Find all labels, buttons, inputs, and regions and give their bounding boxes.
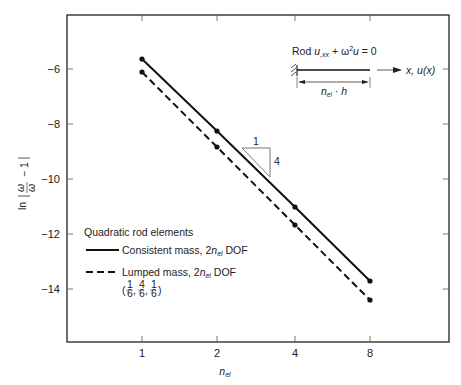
y-tick-labels: −6 −8 −10 −12 −14	[41, 63, 60, 295]
svg-text:6: 6	[151, 287, 157, 299]
rod-equation: Rod u,xx + ω2u = 0	[292, 45, 377, 58]
legend: Quadratic rod elements Consistent mass, …	[84, 226, 248, 299]
x-ticks	[142, 336, 370, 342]
data-point	[367, 297, 372, 302]
data-point	[214, 128, 219, 133]
y-tick-minus10: −10	[41, 173, 60, 185]
top-ticks	[142, 15, 370, 21]
svg-text:− 1: − 1	[18, 162, 30, 177]
lumped-weights: ( 1 6 , 4 6 , 1 6 )	[122, 278, 162, 299]
legend-consistent: Consistent mass, 2nel DOF	[122, 244, 248, 257]
y-ticks	[67, 69, 73, 289]
data-point	[139, 69, 144, 74]
y-tick-minus14: −14	[41, 283, 60, 295]
svg-text:,: ,	[133, 284, 136, 296]
y-axis-label: ln ω ω − 1	[14, 158, 37, 210]
data-point	[292, 222, 297, 227]
y-tick-minus8: −8	[47, 118, 60, 130]
y-tick-minus12: −12	[41, 228, 60, 240]
x-tick-labels: 1 2 4 8	[139, 347, 373, 359]
data-point	[139, 56, 144, 61]
slope-triangle: 1 4	[242, 135, 280, 177]
legend-title: Quadratic rod elements	[84, 226, 193, 238]
svg-text:(: (	[122, 284, 126, 296]
svg-text:): )	[158, 284, 162, 296]
right-ticks	[443, 69, 449, 289]
rod-diagram: Rod u,xx + ω2u = 0 x, u(x) nel · h	[291, 45, 435, 98]
data-point	[214, 144, 219, 149]
svg-text:ω: ω	[25, 184, 37, 192]
x-tick-8: 8	[367, 347, 373, 359]
rod-length-label: nel · h	[321, 85, 347, 98]
svg-text:,: ,	[145, 284, 148, 296]
svg-text:ln: ln	[16, 202, 28, 210]
x-tick-1: 1	[139, 347, 145, 359]
x-tick-4: 4	[292, 347, 298, 359]
convergence-chart: 1 2 4 8 −6 −8 −10 −12 −14 nel ln ω ω − 1	[0, 0, 461, 385]
data-point	[292, 204, 297, 209]
rod-axis-label: x, u(x)	[405, 64, 435, 76]
x-axis-label: nel	[219, 365, 231, 378]
y-tick-minus6: −6	[47, 63, 60, 75]
svg-text:4: 4	[274, 155, 280, 167]
x-tick-2: 2	[214, 347, 220, 359]
svg-text:1: 1	[253, 135, 259, 147]
data-point	[367, 278, 372, 283]
